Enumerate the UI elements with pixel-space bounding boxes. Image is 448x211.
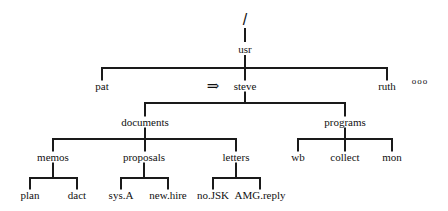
node-usr: usr [237, 44, 252, 55]
node-ruth: ruth [377, 81, 397, 92]
node-sys-a: sys.A [108, 190, 135, 201]
more-ellipsis-icon: ooo [412, 77, 429, 86]
node-root: / [242, 12, 248, 28]
node-collect: collect [329, 152, 360, 163]
tree-connectors [0, 0, 448, 211]
node-no-jsk: no.JSK [196, 190, 230, 201]
node-amg-reply: AMG.reply [233, 190, 286, 201]
node-letters: letters [222, 152, 251, 163]
node-new-hire: new.hire [148, 190, 187, 201]
node-plan: plan [20, 190, 41, 201]
node-steve: steve [233, 81, 258, 92]
node-mon: mon [381, 152, 403, 163]
node-proposals: proposals [122, 152, 166, 163]
node-memos: memos [36, 152, 70, 163]
current-directory-arrow-icon: ⇒ [207, 79, 220, 94]
node-programs: programs [323, 117, 367, 128]
node-pat: pat [94, 81, 109, 92]
node-wb: wb [290, 152, 305, 163]
node-documents: documents [120, 117, 170, 128]
node-dact: dact [67, 190, 87, 201]
